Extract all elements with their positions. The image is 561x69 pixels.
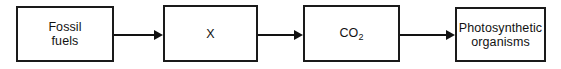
flow-node-photosynthetic-organisms: Photosynthetic organisms xyxy=(455,7,546,62)
flow-node-co2: CO2 xyxy=(303,5,400,62)
flow-node-fossil-fuels-label: Fossil fuels xyxy=(48,20,81,48)
arrow-shaft xyxy=(258,34,295,36)
arrow-shaft xyxy=(114,34,155,36)
flow-arrow-x-to-co2 xyxy=(258,30,303,40)
carbon-cycle-flow-diagram: Fossil fuels X CO2 Photosynthetic organi… xyxy=(0,0,561,69)
flow-node-photosynthetic-organisms-label: Photosynthetic organisms xyxy=(459,21,542,49)
flow-node-x: X xyxy=(163,5,258,62)
flow-node-x-label: X xyxy=(206,27,214,41)
flow-arrow-co2-to-photosynthetic-organisms xyxy=(400,30,455,40)
flow-node-fossil-fuels: Fossil fuels xyxy=(16,6,114,62)
arrow-head-icon xyxy=(154,30,163,40)
flow-node-co2-label-main: CO xyxy=(339,26,358,40)
arrow-head-icon xyxy=(446,30,455,40)
arrow-head-icon xyxy=(294,30,303,40)
flow-node-co2-label: CO2 xyxy=(339,26,363,41)
flow-arrow-fossil-fuels-to-x xyxy=(114,30,163,40)
arrow-shaft xyxy=(400,34,447,36)
flow-node-co2-label-subscript: 2 xyxy=(358,32,363,42)
